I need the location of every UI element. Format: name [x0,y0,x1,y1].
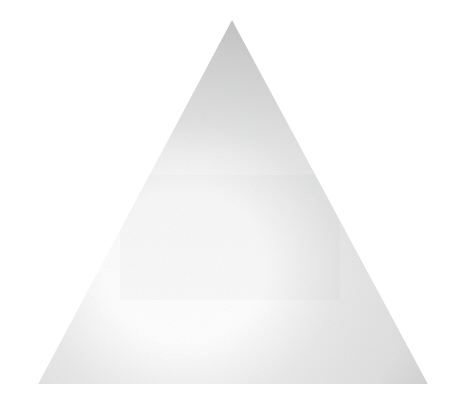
triangle-figure [0,0,455,402]
triangle-shaded-body [0,0,455,402]
triangle-grain-texture [0,0,455,402]
image-canvas: Shaded triangle [0,0,455,402]
